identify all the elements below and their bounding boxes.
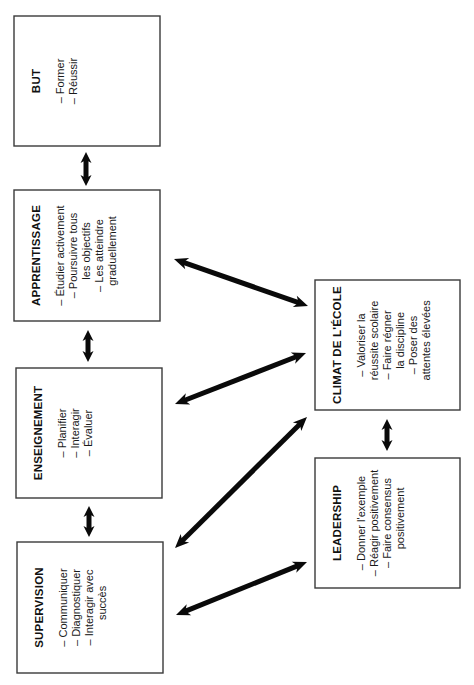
node-item: attentes élevées bbox=[420, 300, 432, 390]
node-title-climat: CLIMAT DE L'ÉCOLE bbox=[331, 286, 343, 404]
node-item: – Former bbox=[54, 58, 66, 103]
node-enseignement[interactable]: ENSEIGNEMENT– Planifier– Interagir– Éval… bbox=[16, 368, 162, 498]
diagram-canvas: BUT– Former– RéussirAPPRENTISSAGE– Étudi… bbox=[0, 0, 474, 685]
node-item: – Réussir bbox=[67, 57, 79, 104]
node-apprentissage[interactable]: APPRENTISSAGE– Étudier activement– Pours… bbox=[14, 190, 160, 321]
node-item: – Communiquer bbox=[57, 568, 69, 647]
node-item: – Évaluer bbox=[82, 409, 94, 456]
node-title-apprentissage: APPRENTISSAGE bbox=[30, 205, 42, 306]
node-title-but: BUT bbox=[30, 69, 42, 93]
node-item: positivement bbox=[394, 488, 406, 559]
node-item: – Valoriser la bbox=[355, 312, 367, 376]
node-item: – Diagnostiquer bbox=[70, 569, 82, 646]
node-item: – Faire consensus bbox=[381, 478, 393, 568]
node-climat[interactable]: CLIMAT DE L'ÉCOLE– Valoriser la réussite… bbox=[315, 280, 460, 410]
node-item: – Les atteindre bbox=[93, 219, 105, 292]
relationship-diagram: BUT– Former– RéussirAPPRENTISSAGE– Étudi… bbox=[0, 0, 474, 685]
node-item: – Poursuivre tous bbox=[67, 212, 79, 298]
node-item: – Étudier activement bbox=[54, 205, 66, 305]
node-title-enseignement: ENSEIGNEMENT bbox=[32, 386, 44, 480]
node-supervision[interactable]: SUPERVISION– Communiquer– Diagnostiquer–… bbox=[17, 542, 163, 673]
node-item: graduellement bbox=[106, 216, 118, 295]
node-item: – Donner l'exemple bbox=[355, 476, 367, 570]
node-item: – Interagir avec bbox=[83, 569, 95, 645]
node-item: – Réagir positivement bbox=[368, 470, 380, 576]
node-title-supervision: SUPERVISION bbox=[33, 567, 45, 648]
node-item: – Interagir bbox=[69, 408, 81, 458]
node-item: – Planifier bbox=[56, 408, 68, 457]
node-item: la discipline bbox=[394, 312, 406, 378]
node-item: les objectifs bbox=[80, 222, 92, 289]
node-but[interactable]: BUT– Former– Réussir bbox=[14, 16, 160, 146]
node-item: réussite scolaire bbox=[368, 301, 380, 390]
node-item: succès bbox=[96, 585, 108, 629]
node-leadership[interactable]: LEADERSHIP– Donner l'exemple– Réagir pos… bbox=[315, 458, 460, 588]
node-item: – Faire régner bbox=[381, 310, 393, 379]
node-title-leadership: LEADERSHIP bbox=[331, 485, 343, 561]
node-item: – Poser des bbox=[407, 315, 419, 374]
